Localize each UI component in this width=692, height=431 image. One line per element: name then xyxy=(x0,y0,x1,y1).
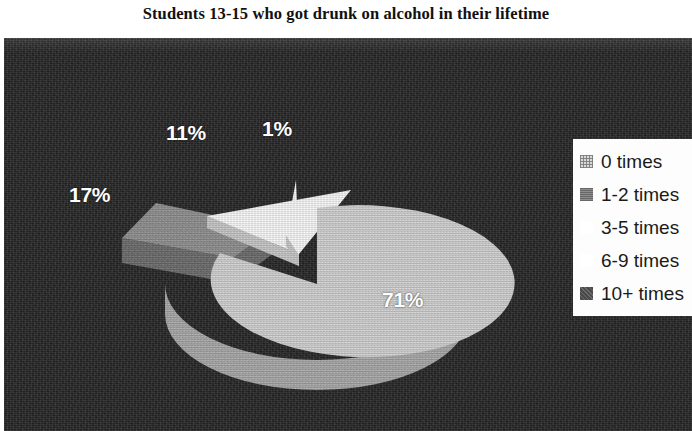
slice-label-0-times: 71% xyxy=(382,288,423,312)
chart-legend: 0 times 1-2 times 3-5 times 6-9 times 10… xyxy=(573,139,692,316)
legend-item-3-5-times: 3-5 times xyxy=(573,211,692,244)
slice-label-3-5-times: 11% xyxy=(166,121,206,145)
page-title: Students 13-15 who got drunk on alcohol … xyxy=(0,4,692,24)
legend-swatch-6-9-times xyxy=(580,254,593,267)
slice-label-1-2-times: 17% xyxy=(69,183,110,207)
legend-swatch-10-plus-times xyxy=(580,287,593,300)
legend-swatch-1-2-times xyxy=(580,188,593,201)
legend-item-1-2-times: 1-2 times xyxy=(573,178,692,211)
slice-label-10-plus-times: 1% xyxy=(262,117,292,141)
legend-swatch-3-5-times xyxy=(580,221,593,234)
legend-label-6-9-times: 6-9 times xyxy=(601,251,679,270)
legend-item-0-times: 0 times xyxy=(573,145,692,178)
legend-item-6-9-times: 6-9 times xyxy=(573,244,692,277)
legend-label-0-times: 0 times xyxy=(601,152,662,171)
legend-label-1-2-times: 1-2 times xyxy=(601,185,679,204)
legend-swatch-0-times xyxy=(580,155,593,168)
legend-label-3-5-times: 3-5 times xyxy=(601,218,679,237)
legend-label-10-plus-times: 10+ times xyxy=(601,284,684,303)
legend-item-10-plus-times: 10+ times xyxy=(573,277,692,310)
